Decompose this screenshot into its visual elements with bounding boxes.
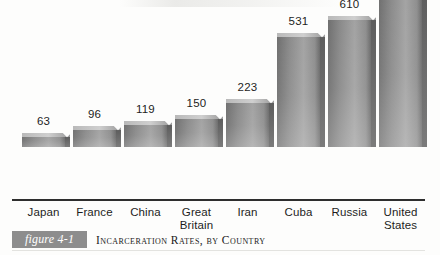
bar-face	[379, 0, 422, 147]
category-label-line: Britain	[165, 219, 228, 232]
bar-value-label: 531	[289, 15, 309, 27]
bar-united-states: 753	[379, 0, 422, 147]
figure-caption: figure 4-1 Incarceration Rates, by Count…	[12, 231, 425, 248]
bar-face	[328, 16, 371, 147]
bar-face	[277, 33, 320, 147]
bar-side-facet	[218, 119, 223, 147]
bar-value-label: 610	[340, 0, 360, 10]
bar-value-label: 223	[238, 81, 258, 93]
figure-number-badge: figure 4-1	[12, 231, 87, 248]
bar-value-label: 119	[136, 103, 155, 115]
bar-side-facet	[320, 37, 325, 147]
bar-side-facet	[65, 137, 70, 147]
bar-value-label: 96	[88, 108, 101, 120]
bar-great-britain: 150	[175, 115, 218, 147]
bar-value-label: 150	[187, 97, 207, 109]
bar-japan: 63	[22, 133, 65, 147]
bar-side-facet	[167, 125, 172, 147]
bar-france: 96	[73, 126, 116, 147]
bar-chart-plot-area: 6396119150223531610753 JapanFranceChinaG…	[0, 0, 440, 203]
category-label-line: United	[369, 206, 432, 219]
bar-value-label: 63	[37, 115, 50, 127]
bar-side-facet	[116, 130, 121, 147]
bar-face	[226, 99, 269, 147]
figure-container: 6396119150223531610753 JapanFranceChinaG…	[0, 0, 440, 255]
bar-china: 119	[124, 121, 167, 147]
bar-side-facet	[371, 20, 376, 147]
bar-cuba: 531	[277, 33, 320, 147]
category-label-united-states: UnitedStates	[369, 206, 432, 231]
figure-caption-text: Incarceration Rates, by Country	[87, 231, 266, 248]
bar-face	[175, 115, 218, 147]
category-label-line: States	[369, 219, 432, 232]
x-axis-line	[12, 199, 425, 201]
bar-side-facet	[422, 0, 427, 147]
bar-side-facet	[269, 103, 274, 147]
bar-russia: 610	[328, 16, 371, 147]
bar-iran: 223	[226, 99, 269, 147]
caption-divider	[12, 250, 425, 251]
